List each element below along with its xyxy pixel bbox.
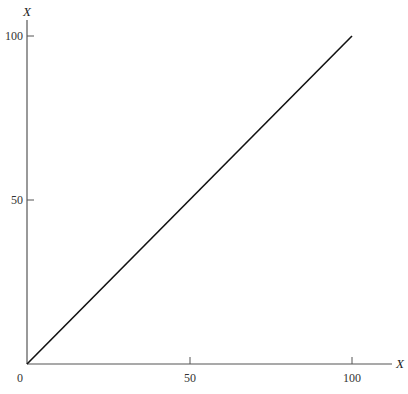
x-axis-label: X: [395, 356, 405, 371]
x-tick-label-50: 50: [184, 371, 196, 385]
y-axis-label: X: [22, 4, 32, 19]
origin-label: 0: [17, 371, 23, 385]
y-tick-label-50: 50: [11, 193, 23, 207]
x-tick-label-100: 100: [343, 371, 361, 385]
y-tick-label-100: 100: [5, 29, 23, 43]
data-line: [27, 36, 352, 364]
chart: 100 50 0 50 100 X X: [0, 0, 408, 394]
